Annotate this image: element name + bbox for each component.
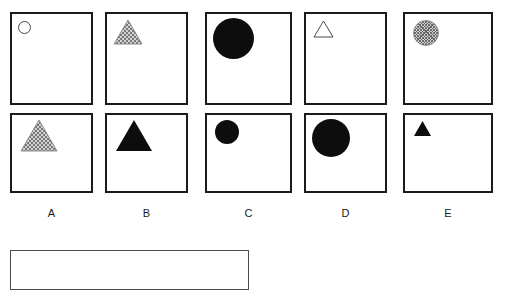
triangle-outline-icon <box>313 20 334 38</box>
matrix-cell[interactable] <box>10 113 93 193</box>
triangle-hatched-icon <box>20 119 58 152</box>
option-label-e: E <box>403 207 493 220</box>
matrix-cell[interactable] <box>304 113 387 193</box>
circle-solid-icon <box>213 18 254 59</box>
triangle-solid-icon <box>413 120 432 137</box>
matrix-cell[interactable] <box>403 12 493 105</box>
matrix-cell[interactable] <box>10 12 93 105</box>
matrix-cell[interactable] <box>205 113 292 193</box>
matrix-cell[interactable] <box>403 113 493 193</box>
triangle-solid-icon <box>115 119 153 152</box>
circle-solid-icon <box>215 120 239 144</box>
matrix-cell[interactable] <box>105 12 188 105</box>
option-label-d: D <box>304 207 387 220</box>
option-label-a: A <box>10 207 93 220</box>
circle-solid-icon <box>312 119 350 157</box>
option-label-b: B <box>105 207 188 220</box>
matrix-cell[interactable] <box>304 12 387 105</box>
matrix-cell[interactable] <box>205 12 292 105</box>
circle-outline-icon <box>18 21 31 34</box>
circle-hatched-icon <box>413 20 439 46</box>
matrix-cell[interactable] <box>105 113 188 193</box>
option-label-c: C <box>205 207 292 220</box>
triangle-hatched-icon <box>113 19 143 45</box>
answer-box[interactable] <box>10 250 249 290</box>
